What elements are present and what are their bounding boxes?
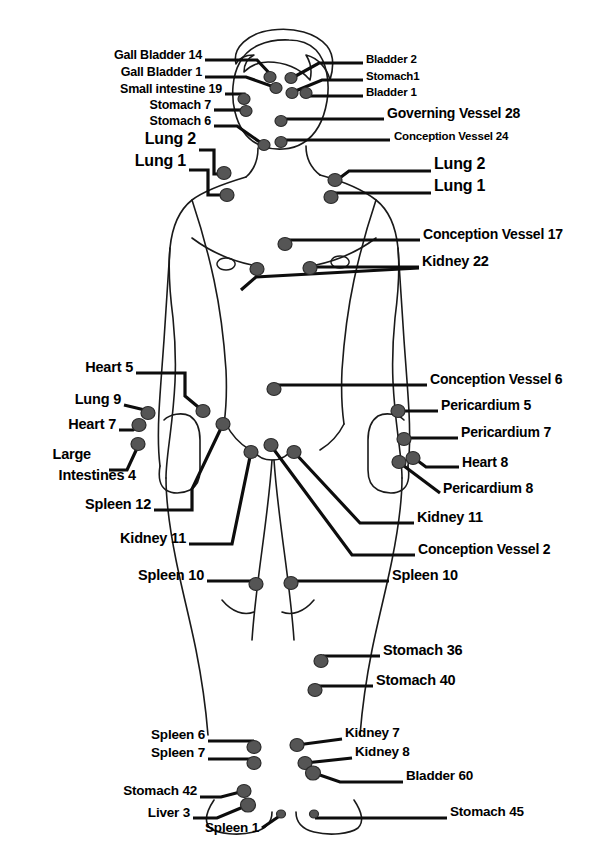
- outline-hair: [235, 29, 332, 80]
- pt-lung-2-left[interactable]: [217, 167, 231, 180]
- label-spleen-10-left: Spleen 10: [0, 568, 204, 583]
- pt-stomach-42[interactable]: [237, 785, 251, 798]
- outline-leg-left-outer: [166, 478, 208, 735]
- pt-spleen-10-right[interactable]: [284, 577, 298, 590]
- outline-chest-left: [192, 238, 252, 265]
- pt-stomach-1[interactable]: [286, 88, 298, 99]
- pt-heart-7[interactable]: [132, 419, 146, 432]
- pt-stomach-6[interactable]: [258, 140, 270, 151]
- label-conception-vessel-24: Conception Vessel 24: [394, 130, 508, 142]
- label-large-intestines-4-line2: Intestines 4: [0, 468, 136, 483]
- pt-lung-1-right[interactable]: [324, 191, 338, 204]
- label-pericardium-5: Pericardium 5: [441, 398, 531, 413]
- outline-arm-left-outer: [158, 248, 170, 466]
- label-lung-2-left: Lung 2: [0, 131, 196, 148]
- label-lung-9: Lung 9: [0, 392, 121, 407]
- label-bladder-1: Bladder 1: [366, 86, 417, 98]
- label-governing-vessel-28: Governing Vessel 28: [387, 106, 520, 121]
- ld-heart-8: [414, 458, 459, 467]
- label-kidney-11-right: Kidney 11: [417, 510, 483, 525]
- pt-pericardium-7[interactable]: [397, 433, 411, 446]
- pt-lung-9[interactable]: [141, 407, 155, 420]
- outline-arm-right-inner: [342, 200, 376, 424]
- pt-small-intestine-19[interactable]: [238, 94, 250, 105]
- label-spleen-6: Spleen 6: [0, 728, 205, 742]
- pt-bladder-1[interactable]: [300, 88, 312, 99]
- outline-neck-right: [306, 146, 320, 175]
- outline-knee-left: [222, 600, 254, 614]
- label-stomach-1: Stomach1: [366, 70, 419, 82]
- pt-gall-bladder-1[interactable]: [270, 83, 282, 94]
- body-outline: [158, 29, 409, 834]
- label-stomach-45: Stomach 45: [450, 805, 524, 819]
- pt-pericardium-5[interactable]: [391, 405, 405, 418]
- label-spleen-7: Spleen 7: [0, 746, 205, 760]
- outline-leg-right-outer: [360, 478, 402, 735]
- label-heart-8: Heart 8: [462, 455, 508, 470]
- label-stomach-40: Stomach 40: [376, 673, 455, 688]
- pt-spleen-1[interactable]: [277, 810, 286, 818]
- outline-torso-r: [320, 175, 402, 478]
- pt-kidney-22-left[interactable]: [250, 263, 264, 276]
- label-gall-bladder-1: Gall Bladder 1: [0, 66, 202, 79]
- pt-spleen-7[interactable]: [247, 757, 261, 770]
- pt-large-intestines-4[interactable]: [131, 438, 145, 451]
- pt-stomach-40[interactable]: [308, 684, 322, 697]
- pt-conception-vessel-2[interactable]: [264, 439, 278, 452]
- pt-bladder-2[interactable]: [285, 73, 297, 84]
- pt-governing-vessel-28[interactable]: [275, 116, 287, 127]
- ld-stomach-6: [214, 126, 264, 145]
- label-stomach-6: Stomach 6: [0, 115, 211, 128]
- pt-pericardium-8[interactable]: [392, 456, 406, 469]
- pt-spleen-12[interactable]: [216, 418, 230, 431]
- pt-kidney-22-right[interactable]: [303, 262, 317, 275]
- pt-stomach-36[interactable]: [314, 655, 328, 668]
- outline-torso: [166, 177, 246, 478]
- label-heart-7: Heart 7: [0, 417, 116, 432]
- ld-bladder-60: [314, 773, 403, 782]
- pt-conception-vessel-17[interactable]: [278, 238, 292, 251]
- pt-kidney-7[interactable]: [290, 739, 304, 752]
- outline-knee-right: [282, 600, 314, 614]
- outline-neck-left: [246, 148, 258, 177]
- pt-liver-3[interactable]: [241, 798, 256, 812]
- pt-conception-vessel-24[interactable]: [275, 137, 287, 148]
- pt-stomach-7[interactable]: [240, 106, 252, 117]
- label-stomach-7: Stomach 7: [0, 99, 211, 112]
- outline-nipple-left: [217, 258, 235, 270]
- pt-gall-bladder-14[interactable]: [264, 72, 276, 83]
- label-heart-5: Heart 5: [0, 360, 133, 375]
- pt-lung-2-right[interactable]: [328, 174, 342, 187]
- label-kidney-8: Kidney 8: [355, 745, 410, 759]
- pt-kidney-11-right[interactable]: [287, 446, 301, 459]
- pt-kidney-11-left[interactable]: [244, 446, 258, 459]
- pt-lung-1-left[interactable]: [220, 189, 234, 202]
- outline-chest-right: [316, 238, 376, 265]
- label-large-intestines-4-line1: Large: [0, 447, 91, 462]
- pt-heart-8[interactable]: [406, 452, 420, 465]
- label-stomach-36: Stomach 36: [383, 643, 462, 658]
- label-pericardium-8: Pericardium 8: [443, 481, 533, 496]
- label-spleen-1: Spleen 1: [0, 821, 259, 835]
- label-spleen-12: Spleen 12: [0, 497, 151, 512]
- pt-bladder-60[interactable]: [306, 766, 321, 780]
- label-small-intestine-19: Small intestine 19: [0, 83, 222, 96]
- pt-spleen-6[interactable]: [247, 741, 261, 754]
- label-kidney-11-left: Kidney 11: [0, 531, 186, 546]
- pt-stomach-45[interactable]: [310, 810, 319, 818]
- ld-lung-2-right: [337, 171, 431, 180]
- pt-heart-5[interactable]: [196, 405, 210, 418]
- label-lung-1-right: Lung 1: [434, 178, 485, 195]
- label-spleen-10-right: Spleen 10: [392, 568, 458, 583]
- pt-conception-vessel-6[interactable]: [267, 383, 281, 396]
- outline-groin-left: [226, 424, 250, 450]
- acupoint-markers: [131, 72, 420, 819]
- outline-groin-right: [320, 424, 344, 450]
- outline-arm-left-inner: [192, 200, 226, 424]
- label-bladder-2: Bladder 2: [366, 53, 417, 65]
- pt-spleen-10-left[interactable]: [249, 578, 263, 591]
- label-lung-1-left: Lung 1: [0, 153, 186, 170]
- label-kidney-22: Kidney 22: [422, 254, 489, 269]
- label-kidney-7: Kidney 7: [345, 726, 400, 740]
- ld-heart-5: [136, 373, 203, 411]
